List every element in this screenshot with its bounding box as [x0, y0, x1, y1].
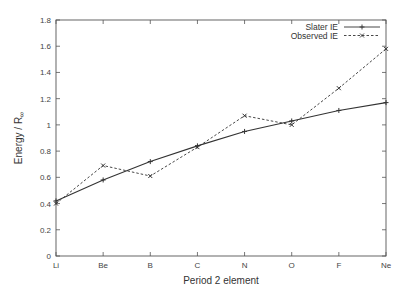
plus-marker-icon — [101, 177, 106, 182]
y-axis-title-subscript: ∞ — [18, 112, 25, 117]
legend: Slater IE Observed IE — [291, 22, 380, 41]
plus-marker-icon — [336, 108, 341, 113]
x-axis-title: Period 2 element — [183, 275, 259, 286]
y-tick-label: 0.6 — [40, 173, 52, 182]
y-tick-label: 1 — [47, 121, 52, 130]
legend-label-observed: Observed IE — [291, 31, 339, 41]
series-line-slater-ie — [56, 103, 386, 201]
y-tick-label: 1.8 — [40, 16, 52, 25]
x-tick-label: Ne — [381, 261, 392, 270]
x-marker-icon — [337, 86, 341, 90]
x-tick-label: F — [336, 261, 341, 270]
y-tick-label: 1.6 — [40, 42, 52, 51]
plus-marker-icon — [242, 129, 247, 134]
y-tick-label: 0.8 — [40, 147, 52, 156]
y-tick-label: 1.2 — [40, 95, 52, 104]
y-tick-label: 0.4 — [40, 200, 52, 209]
x-tick-label: C — [195, 261, 201, 270]
x-tick-label: Li — [53, 261, 59, 270]
x-marker-icon — [101, 164, 105, 168]
y-tick-label: 1.4 — [40, 68, 52, 77]
y-axis-ticks: 00.20.40.60.811.21.41.61.8 — [40, 16, 386, 261]
chart: 00.20.40.60.811.21.41.61.8 LiBeBCNOFNe P… — [0, 0, 406, 290]
x-tick-label: Be — [98, 261, 108, 270]
x-tick-label: N — [242, 261, 248, 270]
x-tick-label: B — [148, 261, 153, 270]
x-tick-label: O — [289, 261, 295, 270]
x-axis-ticks: LiBeBCNOFNe — [53, 20, 392, 270]
x-marker-icon — [148, 174, 152, 178]
plot-frame — [56, 20, 386, 256]
y-axis-title-main: Energy / R — [13, 117, 24, 164]
y-tick-label: 0.2 — [40, 226, 52, 235]
y-tick-label: 0 — [47, 252, 52, 261]
plus-marker-icon — [384, 100, 389, 105]
series-layer — [54, 47, 389, 206]
plus-marker-icon — [360, 25, 365, 30]
plus-marker-icon — [148, 159, 153, 164]
y-axis-title: Energy / R∞ — [13, 112, 25, 164]
